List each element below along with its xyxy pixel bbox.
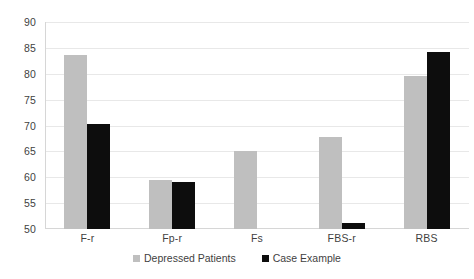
bar-fp-r-depressed-patients (149, 180, 172, 229)
y-tick-80: 80 (24, 68, 36, 80)
x-tick-rbs: RBS (384, 232, 469, 244)
bar-fs-depressed-patients (234, 151, 257, 229)
legend-swatch-icon (262, 255, 269, 262)
bar-chart: 908580757065605550 F-rFp-rFsFBS-rRBS Dep… (0, 0, 474, 279)
y-tick-65: 65 (24, 145, 36, 157)
bar-groups (45, 22, 469, 229)
bar-group-fbs-r (299, 22, 384, 229)
chart-legend: Depressed PatientsCase Example (0, 252, 474, 264)
bar-group-f-r (45, 22, 130, 229)
bar-f-r-depressed-patients (64, 55, 87, 229)
bar-group-fs (215, 22, 300, 229)
x-tick-fbs-r: FBS-r (299, 232, 384, 244)
bar-group-fp-r (130, 22, 215, 229)
x-axis-labels: F-rFp-rFsFBS-rRBS (45, 232, 469, 244)
legend-item-depressed-patients[interactable]: Depressed Patients (133, 252, 236, 264)
y-tick-50: 50 (24, 223, 36, 235)
x-tick-f-r: F-r (45, 232, 130, 244)
bar-group-rbs (384, 22, 469, 229)
y-tick-90: 90 (24, 16, 36, 28)
x-tick-fp-r: Fp-r (130, 232, 215, 244)
y-tick-85: 85 (24, 42, 36, 54)
x-tick-fs: Fs (215, 232, 300, 244)
legend-swatch-icon (133, 255, 140, 262)
y-tick-70: 70 (24, 120, 36, 132)
y-tick-75: 75 (24, 94, 36, 106)
legend-item-case-example[interactable]: Case Example (262, 252, 341, 264)
y-tick-60: 60 (24, 171, 36, 183)
y-axis-labels: 908580757065605550 (0, 22, 40, 229)
bar-f-r-case-example (87, 124, 110, 229)
bar-fp-r-case-example (172, 182, 195, 229)
legend-label: Case Example (273, 252, 341, 264)
bar-rbs-depressed-patients (404, 76, 427, 229)
bar-fbs-r-case-example (342, 223, 365, 229)
y-tick-55: 55 (24, 197, 36, 209)
bar-rbs-case-example (427, 52, 450, 229)
legend-label: Depressed Patients (144, 252, 236, 264)
bar-fbs-r-depressed-patients (319, 137, 342, 229)
gridline-50 (46, 229, 469, 230)
